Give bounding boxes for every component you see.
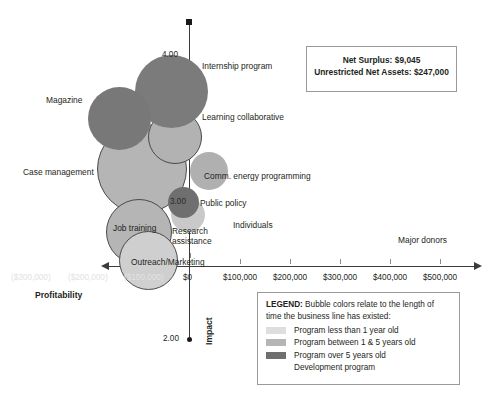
x-tick-mark <box>440 259 441 264</box>
x-tick-label-300000: $300,000 <box>323 273 357 283</box>
bubble-label-magazine: Magazine <box>46 95 82 105</box>
legend-label-development-program: Development program <box>294 362 375 374</box>
y-axis-top-marker <box>186 19 192 25</box>
legend-swatch-less-than-1-year <box>266 327 286 334</box>
y-axis-bottom-marker <box>187 337 192 342</box>
legend-box: LEGEND: Bubble colors relate to the leng… <box>257 292 460 385</box>
x-axis-right-arrow <box>474 262 482 270</box>
bubble-label-major-donors: Major donors <box>398 235 447 245</box>
bubble-magazine[interactable] <box>88 87 151 150</box>
y-tick-label-4: 4.00 <box>162 50 178 60</box>
x-tick-label-200000: $200,000 <box>273 273 307 283</box>
legend-label-over-5-years: Program over 5 years old <box>294 350 386 362</box>
bubble-label-job-training: Job training <box>113 223 156 233</box>
legend-item-between-1-and-5-years: Program between 1 & 5 years old <box>266 337 451 350</box>
legend-item-less-than-1-year: Program less than 1 year old <box>266 324 451 337</box>
x-tick-label-neg300000: ($300,000) <box>11 273 51 283</box>
bubble-label-public-policy: Public policy <box>200 198 247 208</box>
x-tick-mark <box>340 259 341 264</box>
legend-label-between-1-and-5-years: Program between 1 & 5 years old <box>294 337 416 349</box>
x-axis-title: Profitability <box>35 290 82 300</box>
legend-item-development-program: Development program <box>266 362 451 375</box>
bubble-label-individuals: Individuals <box>233 220 273 230</box>
y-axis-title: Impact <box>204 317 214 345</box>
info-unrestricted-net-assets: Unrestricted Net Assets: $247,000 <box>313 66 450 78</box>
y-tick-label-2: 2.00 <box>163 334 179 344</box>
bubble-chart-canvas: Internship program Magazine Learning col… <box>0 0 490 398</box>
info-net-surplus: Net Surplus: $9,045 <box>313 54 450 66</box>
legend-swatch-over-5-years <box>266 352 286 359</box>
x-tick-label-500000: $500,000 <box>423 273 457 283</box>
y-tick-label-3: 3.00 <box>170 197 186 207</box>
bubble-label-case-management: Case management <box>23 167 94 177</box>
x-tick-label-400000: $400,000 <box>373 273 407 283</box>
bubble-label-internship-program: Internship program <box>202 61 272 71</box>
legend-heading: LEGEND: Bubble colors relate to the leng… <box>266 299 451 322</box>
summary-info-box: Net Surplus: $9,045 Unrestricted Net Ass… <box>306 46 457 92</box>
x-axis-left-arrow <box>101 262 109 270</box>
legend-swatch-between-1-and-5-years <box>266 339 286 346</box>
legend-item-over-5-years: Program over 5 years old <box>266 349 451 362</box>
bubble-label-comm-energy-programming: Comm. energy programming <box>204 171 311 181</box>
x-tick-label-0: $0 <box>183 273 192 283</box>
x-tick-mark <box>290 259 291 264</box>
bubble-label-outreach-marketing: Outreach/Marketing <box>131 257 205 267</box>
x-tick-label-neg200000: ($200,000) <box>68 273 108 283</box>
bubble-label-research-assistance-line1: Research <box>172 226 208 236</box>
x-tick-mark <box>240 259 241 264</box>
bubble-label-research-assistance-line2: assistance <box>172 236 212 246</box>
legend-label-less-than-1-year: Program less than 1 year old <box>294 325 399 337</box>
x-tick-mark <box>390 259 391 264</box>
x-tick-label-100000: $100,000 <box>223 273 257 283</box>
legend-heading-bold: LEGEND: <box>266 300 303 309</box>
x-tick-label-neg100000: ($100,000) <box>124 273 164 283</box>
legend-swatch-development-program <box>266 364 286 371</box>
bubble-label-learning-collaborative: Learning collaborative <box>202 112 284 122</box>
